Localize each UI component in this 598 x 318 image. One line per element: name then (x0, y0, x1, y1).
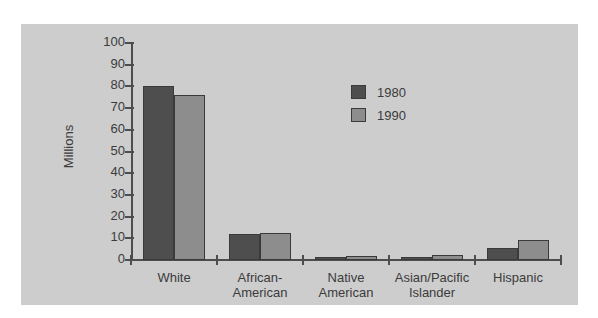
legend-item-1990: 1990 (351, 107, 461, 123)
bar-1980-asian-pacific-islander (401, 257, 432, 260)
y-axis-tick-label: 60 (91, 124, 125, 134)
y-axis-tick (125, 64, 134, 66)
y-axis-tick-label: 100 (91, 37, 125, 47)
y-axis-tick-label-wrap: 40 (79, 167, 125, 177)
y-axis-tick-label: 70 (91, 102, 125, 112)
legend-label: 1980 (377, 85, 406, 100)
x-axis-tick (130, 255, 132, 265)
y-axis-tick-label-wrap: 20 (79, 211, 125, 221)
category-label-hispanic: Hispanic (458, 270, 578, 285)
bar-1990-white (174, 95, 205, 260)
bar-1990-native-american (346, 256, 377, 260)
y-axis-tick-label-wrap: 100 (79, 37, 125, 47)
y-axis-tick (125, 129, 134, 131)
y-axis-tick-label: 80 (91, 80, 125, 90)
y-axis-tick-label: 90 (91, 59, 125, 69)
legend-label: 1990 (377, 108, 406, 123)
bar-1990-hispanic (518, 240, 549, 260)
legend-swatch-icon (351, 85, 366, 99)
y-axis-tick (125, 85, 134, 87)
bar-1980-white (143, 86, 174, 260)
bar-1990-asian-pacific-islander (432, 255, 463, 260)
y-axis-tick-label-wrap: 30 (79, 189, 125, 199)
bar-1980-african-american (229, 234, 260, 260)
y-axis-label: Millions (61, 97, 76, 197)
y-axis-tick-label: 10 (91, 232, 125, 242)
x-axis-tick (560, 255, 562, 265)
category-label-line: Islander (372, 285, 492, 300)
legend-swatch-icon (351, 108, 366, 122)
y-axis-tick-label: 20 (91, 211, 125, 221)
y-axis-tick-label: 30 (91, 189, 125, 199)
category-label-line: Hispanic (458, 270, 578, 285)
chart-figure-panel: 0102030405060708090100 Millions WhiteAfr… (21, 24, 578, 305)
y-axis-tick-label-wrap: 60 (79, 124, 125, 134)
y-axis-tick-label-wrap: 70 (79, 102, 125, 112)
y-axis-tick-label-wrap: 0 (79, 254, 125, 264)
bar-1980-native-american (315, 257, 346, 260)
x-axis-tick (388, 255, 390, 265)
x-axis-tick (474, 255, 476, 265)
y-axis-tick (125, 42, 134, 44)
chart-legend: 19801990 (351, 84, 461, 130)
y-axis-tick-label: 0 (91, 254, 125, 264)
y-axis-tick (125, 194, 134, 196)
y-axis-tick-label: 40 (91, 167, 125, 177)
y-axis-tick-label-wrap: 80 (79, 80, 125, 90)
x-axis-tick (216, 255, 218, 265)
y-axis-tick (125, 151, 134, 153)
y-axis-tick-label-wrap: 90 (79, 59, 125, 69)
y-axis-tick (125, 237, 134, 239)
x-axis-tick (302, 255, 304, 265)
y-axis-tick-label-wrap: 50 (79, 146, 125, 156)
legend-item-1980: 1980 (351, 84, 461, 100)
y-axis-tick (125, 172, 134, 174)
y-axis-tick (125, 107, 134, 109)
bar-1990-african-american (260, 233, 291, 260)
y-axis-tick-label: 50 (91, 146, 125, 156)
bar-1980-hispanic (487, 248, 518, 260)
chart-plot-area: 0102030405060708090100 Millions WhiteAfr… (21, 24, 578, 305)
y-axis-tick (125, 216, 134, 218)
y-axis-tick-label-wrap: 10 (79, 232, 125, 242)
